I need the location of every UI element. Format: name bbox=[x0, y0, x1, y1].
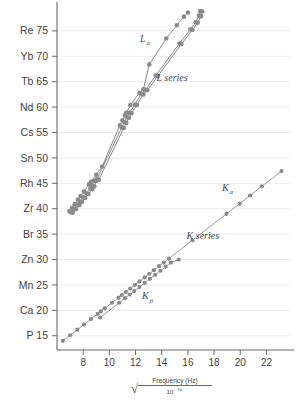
data-point bbox=[199, 14, 204, 19]
data-point bbox=[83, 196, 88, 201]
y-tick-label-mn: Mn 25 bbox=[19, 279, 48, 291]
x-tick-label-8: 8 bbox=[80, 357, 86, 368]
data-point bbox=[137, 285, 141, 289]
data-point bbox=[152, 268, 156, 272]
data-point bbox=[121, 126, 126, 131]
data-point bbox=[164, 265, 168, 269]
chart-canvas: P 15Ca 20Mn 25Zn 30Br 35Zr 40Rh 45Sn 50C… bbox=[0, 0, 296, 404]
y-tick-label-p: P 15 bbox=[27, 329, 49, 341]
y-tick-label-re: Re 75 bbox=[20, 24, 48, 36]
radical-sign: √ bbox=[131, 381, 139, 396]
data-point bbox=[157, 264, 161, 268]
data-point bbox=[238, 202, 242, 206]
data-point bbox=[124, 290, 128, 294]
data-point bbox=[164, 36, 169, 41]
data-point bbox=[74, 207, 79, 212]
y-tick-label-cs: Cs 55 bbox=[21, 126, 49, 138]
data-point bbox=[147, 62, 152, 67]
data-point bbox=[279, 169, 283, 173]
data-point bbox=[124, 121, 129, 126]
data-point bbox=[127, 115, 132, 120]
data-point bbox=[248, 193, 252, 197]
data-point bbox=[128, 103, 133, 108]
data-point bbox=[190, 28, 195, 33]
data-point bbox=[68, 333, 72, 337]
y-tick-label-nd: Nd 60 bbox=[20, 101, 48, 113]
y-tick-label-zr: Zr 40 bbox=[23, 202, 48, 214]
data-point bbox=[135, 103, 140, 108]
y-tick-label-tb: Tb 65 bbox=[21, 75, 48, 87]
data-point bbox=[158, 269, 162, 273]
data-point bbox=[137, 279, 141, 283]
data-point bbox=[143, 281, 147, 285]
x-tick-label-18: 18 bbox=[209, 357, 221, 368]
y-axis-labels: P 15Ca 20Mn 25Zn 30Br 35Zr 40Rh 45Sn 50C… bbox=[19, 24, 48, 341]
data-point bbox=[89, 317, 93, 321]
annotation-k-beta-subscript: β bbox=[149, 297, 154, 305]
data-point bbox=[169, 260, 173, 264]
axis-title-exponent: 15 bbox=[177, 387, 182, 392]
data-point bbox=[179, 42, 184, 47]
data-point bbox=[98, 315, 102, 319]
data-point bbox=[92, 184, 97, 189]
y-tick-label-yb: Yb 70 bbox=[21, 50, 49, 62]
data-point bbox=[99, 309, 103, 313]
data-point bbox=[129, 111, 134, 116]
data-point bbox=[117, 301, 121, 305]
x-axis-labels: 810121416182022 bbox=[80, 357, 272, 368]
data-point bbox=[200, 9, 205, 14]
data-point bbox=[75, 328, 79, 332]
y-tick-label-sn: Sn 50 bbox=[21, 152, 49, 164]
series-markers bbox=[61, 9, 284, 343]
y-tick-label-rh: Rh 45 bbox=[20, 177, 48, 189]
data-point bbox=[147, 272, 151, 276]
x-axis-ticks bbox=[83, 350, 266, 355]
data-point bbox=[86, 192, 91, 197]
x-tick-label-16: 16 bbox=[182, 357, 194, 368]
annotation-l-alpha-subscript: α bbox=[146, 39, 150, 47]
data-point bbox=[177, 257, 181, 261]
y-axis-ticks bbox=[52, 31, 57, 336]
data-point bbox=[61, 339, 65, 343]
data-point bbox=[145, 88, 150, 93]
data-point bbox=[97, 177, 102, 182]
data-point bbox=[141, 92, 146, 97]
x-tick-label-10: 10 bbox=[104, 357, 116, 368]
x-axis-title: √Frequency (Hz)1015 bbox=[131, 377, 212, 396]
data-point bbox=[133, 283, 137, 287]
moseley-plot: P 15Ca 20Mn 25Zn 30Br 35Zr 40Rh 45Sn 50C… bbox=[0, 0, 296, 404]
annotation-k-alpha-subscript: α bbox=[229, 188, 233, 196]
data-point bbox=[174, 23, 179, 28]
data-point bbox=[148, 277, 152, 281]
annotation-l-alpha: L bbox=[139, 33, 146, 44]
y-tick-label-br: Br 35 bbox=[23, 228, 48, 240]
annotation-l-series: L series bbox=[155, 72, 187, 83]
annotation-k-series: K series bbox=[186, 230, 220, 241]
data-point bbox=[260, 184, 264, 188]
data-point bbox=[224, 212, 228, 216]
axis-title-denominator: 10 bbox=[167, 388, 174, 395]
data-point bbox=[162, 260, 166, 264]
data-point bbox=[128, 286, 132, 290]
series-annotations: LαL seriesKαK seriesKβ bbox=[139, 33, 233, 305]
data-point bbox=[195, 20, 200, 25]
y-tick-label-ca: Ca 20 bbox=[20, 304, 48, 316]
data-point bbox=[132, 289, 136, 293]
data-point bbox=[94, 172, 99, 177]
data-point bbox=[70, 210, 75, 215]
data-point bbox=[110, 301, 114, 305]
data-point bbox=[120, 293, 124, 297]
data-point bbox=[103, 306, 107, 310]
data-point bbox=[100, 164, 105, 169]
data-point bbox=[167, 256, 171, 260]
x-tick-label-20: 20 bbox=[235, 357, 247, 368]
data-point bbox=[123, 296, 127, 300]
data-point bbox=[182, 14, 187, 19]
data-point bbox=[128, 293, 132, 297]
data-point bbox=[153, 273, 157, 277]
x-tick-label-14: 14 bbox=[156, 357, 168, 368]
data-point bbox=[186, 10, 191, 15]
y-tick-label-zn: Zn 30 bbox=[21, 253, 48, 265]
x-tick-label-12: 12 bbox=[130, 357, 142, 368]
x-tick-label-22: 22 bbox=[261, 357, 273, 368]
